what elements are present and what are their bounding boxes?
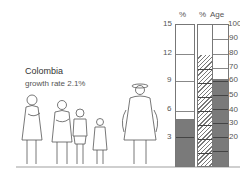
bar-age xyxy=(212,24,229,167)
bar-fill-age xyxy=(213,79,228,166)
right-tick: 40 xyxy=(229,105,238,114)
right-tick: 80 xyxy=(229,48,238,57)
left-tick: 9 xyxy=(167,75,171,84)
bar-growth-percent xyxy=(175,24,195,167)
left-tick: 6 xyxy=(167,104,171,113)
family-figures-illustration xyxy=(16,80,176,170)
bar-fill-hatched xyxy=(198,55,213,166)
left-tick: 12 xyxy=(163,48,172,57)
chart-title: Colombia xyxy=(25,66,63,76)
right-tick: 20 xyxy=(229,132,238,141)
left-tick: 3 xyxy=(167,132,171,141)
right-tick: 30 xyxy=(229,118,238,127)
header-percent-2: % xyxy=(199,10,206,19)
right-tick: 60 xyxy=(229,75,238,84)
right-tick: 90 xyxy=(229,33,238,42)
bar-fill xyxy=(176,119,194,166)
header-age: Age xyxy=(210,10,224,19)
right-tick: 70 xyxy=(229,62,238,71)
header-percent-1: % xyxy=(179,10,186,19)
left-tick: 15 xyxy=(163,19,172,28)
right-tick: 50 xyxy=(229,90,238,99)
right-tick: 100 xyxy=(228,19,240,28)
